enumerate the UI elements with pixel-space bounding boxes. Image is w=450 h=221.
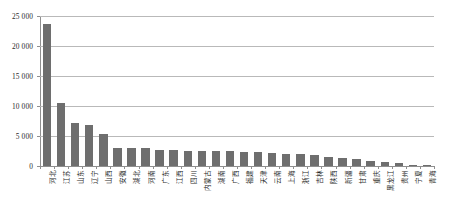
x-tick-label: 内蒙古 <box>205 170 212 191</box>
y-axis-labels: 05 00010 00015 00020 00025 000 <box>0 0 38 221</box>
y-axis-tick <box>37 16 40 17</box>
x-axis-tick <box>237 166 238 169</box>
x-tick-label: 山东 <box>78 170 85 184</box>
x-tick-label: 上海 <box>289 170 296 184</box>
x-tick-label: 云南 <box>275 170 282 184</box>
y-axis-tick <box>37 76 40 77</box>
bar <box>184 151 192 166</box>
x-axis-tick <box>434 166 435 169</box>
x-axis-tick <box>96 166 97 169</box>
x-axis-tick <box>209 166 210 169</box>
x-tick-label: 江苏 <box>64 170 71 184</box>
x-tick-label: 河南 <box>149 170 156 184</box>
x-tick-label: 湖南 <box>219 170 226 184</box>
x-axis-tick <box>350 166 351 169</box>
x-tick-label: 青海 <box>430 170 437 184</box>
x-axis-tick <box>378 166 379 169</box>
y-axis-tick <box>37 46 40 47</box>
x-tick-label: 福建 <box>247 170 254 184</box>
x-axis-tick <box>68 166 69 169</box>
x-axis-tick <box>124 166 125 169</box>
y-tick-label: 5 000 <box>16 132 33 141</box>
bar <box>296 154 304 166</box>
x-tick-label: 河北 <box>50 170 57 184</box>
x-axis-tick <box>265 166 266 169</box>
x-axis-tick <box>392 166 393 169</box>
x-tick-label: 辽宁 <box>92 170 99 184</box>
y-axis-tick <box>37 106 40 107</box>
x-axis-labels: 河北江苏山东辽宁山西安徽湖北河南广东江西四川内蒙古湖南广西福建天津云南上海浙江吉… <box>40 170 434 221</box>
x-axis-tick <box>139 166 140 169</box>
bar <box>282 154 290 166</box>
x-tick-label: 湖北 <box>134 170 141 184</box>
y-tick-label: 20 000 <box>12 42 33 51</box>
bar-series <box>40 16 434 166</box>
x-tick-label: 宁夏 <box>416 170 423 184</box>
x-axis-tick <box>82 166 83 169</box>
x-axis-tick <box>181 166 182 169</box>
plot-area <box>40 16 434 166</box>
x-axis-tick <box>223 166 224 169</box>
x-tick-label: 广东 <box>163 170 170 184</box>
bar <box>338 158 346 166</box>
bar <box>85 125 93 166</box>
x-tick-label: 广西 <box>233 170 240 184</box>
y-tick-label: 25 000 <box>12 12 33 21</box>
x-axis-tick <box>40 166 41 169</box>
x-tick-label: 山西 <box>106 170 113 184</box>
bar <box>198 151 206 166</box>
bar <box>212 151 220 166</box>
x-axis-tick <box>364 166 365 169</box>
bar <box>57 103 65 166</box>
x-axis-tick <box>195 166 196 169</box>
bar <box>324 157 332 166</box>
x-axis-tick <box>54 166 55 169</box>
x-axis-tick <box>167 166 168 169</box>
bar <box>226 151 234 166</box>
x-tick-label: 天津 <box>261 170 268 184</box>
y-axis-tick <box>37 136 40 137</box>
x-axis-tick <box>279 166 280 169</box>
x-tick-label: 浙江 <box>303 170 310 184</box>
x-tick-label: 安徽 <box>120 170 127 184</box>
bar <box>127 148 135 166</box>
x-axis-tick <box>406 166 407 169</box>
bar <box>169 150 177 166</box>
bar <box>99 134 107 166</box>
x-axis-tick <box>251 166 252 169</box>
x-axis-tick <box>420 166 421 169</box>
x-tick-label: 贵州 <box>402 170 409 184</box>
x-axis-tick <box>293 166 294 169</box>
x-axis-tick <box>110 166 111 169</box>
bar <box>240 152 248 166</box>
x-tick-label: 黑龙江 <box>388 170 395 191</box>
y-tick-label: 10 000 <box>12 102 33 111</box>
x-tick-label: 陕西 <box>331 170 338 184</box>
x-tick-label: 吉林 <box>317 170 324 184</box>
x-axis-tick <box>153 166 154 169</box>
x-axis-tick <box>321 166 322 169</box>
y-tick-label: 15 000 <box>12 72 33 81</box>
y-tick-label: 0 <box>29 162 33 171</box>
bar <box>43 24 51 166</box>
bar <box>71 123 79 166</box>
x-tick-label: 重庆 <box>374 170 381 184</box>
x-tick-label: 四川 <box>191 170 198 184</box>
x-tick-label: 甘肃 <box>360 170 367 184</box>
bar-chart: 05 00010 00015 00020 00025 000 河北江苏山东辽宁山… <box>0 0 450 221</box>
bar <box>268 153 276 166</box>
bar <box>113 148 121 166</box>
x-tick-label: 江西 <box>177 170 184 184</box>
bar <box>155 150 163 166</box>
bar <box>141 148 149 166</box>
bar <box>310 155 318 166</box>
bar <box>352 159 360 166</box>
x-tick-label: 新疆 <box>346 170 353 184</box>
x-axis-tick <box>307 166 308 169</box>
x-axis-tick <box>336 166 337 169</box>
bar <box>254 152 262 166</box>
